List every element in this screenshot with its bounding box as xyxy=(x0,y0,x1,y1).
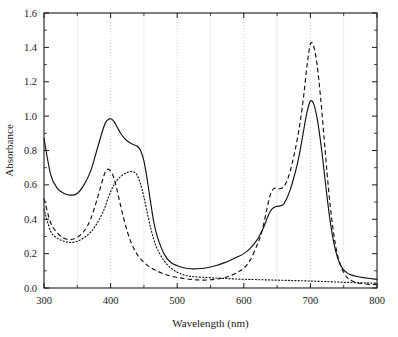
y-axis-title: Absorbance xyxy=(3,124,15,177)
x-axis-title: Wavelength (nm) xyxy=(172,317,249,330)
x-tick-label: 300 xyxy=(36,295,52,306)
y-tick-label: 1.0 xyxy=(24,111,37,122)
x-tick-label: 500 xyxy=(169,295,185,306)
absorbance-spectrum-figure: 300400500600700800 0.00.20.40.60.81.01.2… xyxy=(0,0,398,337)
y-axis-tick-labels: 0.00.20.40.60.81.01.21.41.6 xyxy=(24,8,38,294)
y-tick-label: 0.8 xyxy=(24,145,37,156)
chart-background xyxy=(0,0,398,337)
y-tick-label: 1.4 xyxy=(24,42,38,53)
x-tick-label: 400 xyxy=(103,295,119,306)
y-tick-label: 0.2 xyxy=(24,248,37,259)
y-tick-label: 1.6 xyxy=(24,8,37,19)
x-tick-label: 800 xyxy=(369,295,385,306)
x-tick-label: 700 xyxy=(303,295,319,306)
x-tick-label: 600 xyxy=(236,295,252,306)
y-tick-label: 1.2 xyxy=(24,76,37,87)
y-tick-label: 0.0 xyxy=(24,283,37,294)
spectrum-chart-canvas: 300400500600700800 0.00.20.40.60.81.01.2… xyxy=(0,0,398,337)
y-tick-label: 0.6 xyxy=(24,179,37,190)
y-tick-label: 0.4 xyxy=(24,214,38,225)
